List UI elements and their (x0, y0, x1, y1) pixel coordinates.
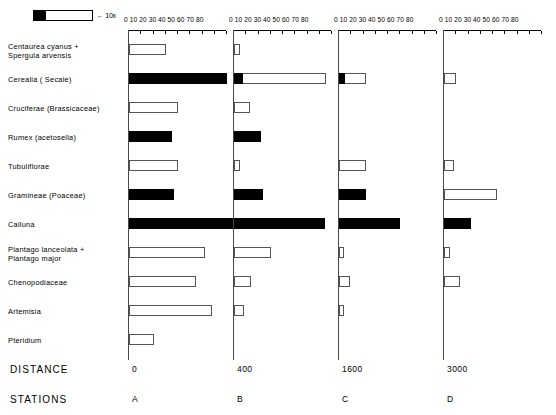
bar (129, 276, 196, 287)
bar (444, 247, 450, 258)
bar (339, 305, 344, 316)
station-id: A (132, 394, 138, 404)
taxon-label: Cerealia ( Secale) (8, 65, 120, 94)
x-axis-rail (338, 30, 436, 34)
taxon-label: Pteridium (8, 326, 120, 355)
x-axis-tick (363, 31, 364, 34)
bar (234, 44, 240, 55)
x-axis-tick (468, 31, 469, 34)
station-id: D (447, 394, 454, 404)
x-axis-tick (517, 31, 518, 34)
bar (234, 247, 271, 258)
bar (339, 218, 400, 229)
bar (444, 218, 471, 229)
x-axis-tick (529, 31, 530, 34)
x-axis-tick (245, 31, 246, 34)
taxon-label: Plantago lanceolata +Plantago major (8, 239, 120, 268)
station-id: C (342, 394, 349, 404)
bar (234, 102, 250, 113)
taxon-label: Calluna (8, 210, 120, 239)
x-axis-tick (319, 31, 320, 34)
legend-black-swatch (34, 11, 46, 20)
x-axis-rail (233, 30, 331, 34)
bar (129, 102, 178, 113)
bar (234, 131, 261, 142)
distance-value: 400 (237, 364, 252, 374)
x-axis-tick (375, 31, 376, 34)
station-panel-b: 0 10 20 30 40 50 60 70 80 (233, 28, 338, 360)
legend-swatch (33, 10, 93, 21)
x-axis-tick (455, 31, 456, 34)
x-axis-tick (294, 31, 295, 34)
x-axis-tick (165, 31, 166, 34)
bar (129, 189, 174, 200)
bar (339, 189, 366, 200)
legend-white-swatch (46, 11, 92, 20)
taxon-label: Rumex (acetosella) (8, 123, 120, 152)
bar (339, 160, 366, 171)
x-axis-tick-labels: 0 10 20 30 40 50 60 70 80 (334, 16, 414, 23)
bar (444, 189, 497, 200)
x-axis-tick (412, 31, 413, 34)
bar (339, 276, 350, 287)
station-panel-d: 0 10 20 30 40 50 60 70 80 (443, 28, 548, 360)
taxon-label: Chenopodiaceae (8, 268, 120, 297)
bar (234, 160, 240, 171)
taxon-label-text: Cerealia ( Secale) (8, 75, 72, 84)
bar-white-segment (243, 73, 326, 84)
x-axis-tick (307, 31, 308, 34)
bar (444, 276, 460, 287)
x-axis-tick (282, 31, 283, 34)
x-axis-tick (202, 31, 203, 34)
bar (444, 160, 454, 171)
x-axis-tick-labels: 0 10 20 30 40 50 60 70 80 (124, 16, 204, 23)
bar (129, 218, 245, 229)
x-axis-tick (492, 31, 493, 34)
taxon-label-text: Centaurea cyanus +Spergula arvensis (8, 42, 79, 60)
bar (234, 73, 326, 84)
bar (444, 73, 456, 84)
x-axis-tick (270, 31, 271, 34)
x-axis-tick (387, 31, 388, 34)
x-axis-tick (189, 31, 190, 34)
x-axis-tick (399, 31, 400, 34)
bar (129, 131, 172, 142)
bar (129, 334, 154, 345)
taxon-label-column: Centaurea cyanus +Spergula arvensisCerea… (8, 36, 120, 355)
x-axis-rail (443, 30, 541, 34)
bar-black-segment (234, 73, 243, 84)
bar (234, 305, 244, 316)
taxon-label: Artemisia (8, 297, 120, 326)
station-id: B (237, 394, 243, 404)
taxon-label: Gramineae (Poaceae) (8, 181, 120, 210)
x-axis-rail (128, 30, 226, 34)
distance-value: 1600 (342, 364, 363, 374)
bar (339, 247, 344, 258)
bar-white-segment (345, 73, 366, 84)
taxon-label: Centaurea cyanus +Spergula arvensis (8, 36, 120, 65)
x-axis-tick (258, 31, 259, 34)
x-axis-tick (480, 31, 481, 34)
x-axis-tick-labels: 0 10 20 30 40 50 60 70 80 (229, 16, 309, 23)
bar (129, 160, 178, 171)
x-axis-tick (153, 31, 154, 34)
x-axis-tick (214, 31, 215, 34)
bar (129, 305, 212, 316)
x-axis-tick (504, 31, 505, 34)
taxon-label-text: Plantago lanceolata +Plantago major (8, 245, 85, 263)
station-panel-c: 0 10 20 30 40 50 60 70 80 (338, 28, 443, 360)
taxon-label-text: Gramineae (Poaceae) (8, 191, 85, 200)
x-axis-tick (140, 31, 141, 34)
stations-row-label: STATIONS (10, 394, 67, 405)
taxon-label-text: Pteridium (8, 336, 41, 345)
taxon-label-text: Cruciferae (Brassicaceae) (8, 104, 100, 113)
x-axis-tick (226, 31, 227, 34)
taxon-label: Tubuliflorae (8, 152, 120, 181)
taxon-label-text: Artemisia (8, 307, 41, 316)
taxon-label-text: Tubuliflorae (8, 162, 49, 171)
taxon-label: Cruciferae (Brassicaceae) (8, 94, 120, 123)
taxon-label-text: Chenopodiaceae (8, 278, 67, 287)
x-axis-tick (350, 31, 351, 34)
x-axis-tick (436, 31, 437, 34)
bar (234, 189, 263, 200)
